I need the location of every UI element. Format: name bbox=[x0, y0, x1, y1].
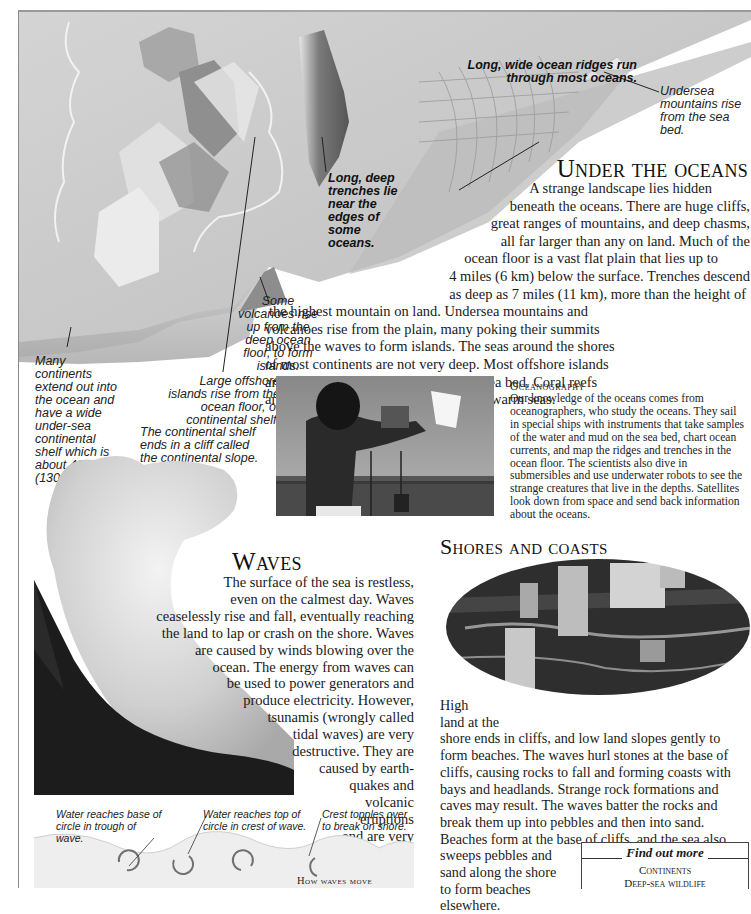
find-out-more-box: Find out more Continents Deep-sea wildli… bbox=[581, 842, 749, 889]
callout-undersea-mountains: Undersea mountains rise from the sea bed… bbox=[660, 85, 751, 137]
oceanography-heading: Oceanography bbox=[510, 380, 585, 392]
label-topples: Crest topples over to break on shore. bbox=[322, 808, 417, 832]
sea-stack bbox=[558, 566, 588, 636]
shores-and-coasts-heading: Shores and coasts bbox=[440, 534, 608, 560]
sea-stack bbox=[505, 628, 535, 696]
oceanographer-photo bbox=[276, 376, 494, 516]
sea-stack bbox=[610, 563, 665, 608]
link-continents[interactable]: Continents bbox=[582, 864, 748, 877]
under-the-oceans-heading: Under the oceans bbox=[523, 155, 748, 183]
find-out-more-title: Find out more bbox=[622, 845, 707, 861]
label-crest: Water reaches top of circle in crest of … bbox=[203, 808, 308, 832]
link-deep-sea-wildlife[interactable]: Deep-sea wildlife bbox=[582, 877, 748, 890]
callout-ridges: Long, wide ocean ridges run through most… bbox=[457, 59, 637, 85]
how-waves-move-title: How waves move bbox=[297, 875, 372, 886]
find-out-more-links: Continents Deep-sea wildlife bbox=[582, 864, 748, 890]
waves-heading: Waves bbox=[232, 548, 302, 576]
find-out-more-header: Find out more bbox=[582, 845, 748, 861]
sea-stack bbox=[660, 566, 685, 588]
sea-stack bbox=[640, 640, 665, 662]
sea-stack bbox=[520, 583, 538, 618]
label-trough: Water reaches base of circle in trough o… bbox=[56, 808, 166, 844]
under-the-oceans-text: A strange landscape lies hidden beneath … bbox=[250, 180, 750, 409]
sea-stacks-photo bbox=[445, 558, 751, 696]
oceanography-text: Our knowledge of the oceans comes from o… bbox=[510, 393, 746, 522]
